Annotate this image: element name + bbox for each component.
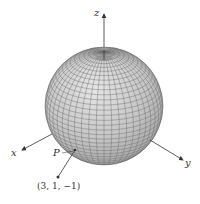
x-axis [22, 134, 52, 150]
sphere-diagram [0, 0, 200, 204]
y-axis [150, 140, 183, 160]
z-axis-label: z [94, 8, 99, 18]
point-p-marker [74, 149, 77, 152]
point-p-label: P [53, 148, 60, 158]
x-axis-label: x [11, 148, 17, 158]
point-external-marker [57, 176, 60, 179]
y-axis-label: y [185, 158, 191, 168]
sphere [45, 47, 163, 165]
point-coordinates-label: (3, 1, −1) [37, 182, 80, 191]
